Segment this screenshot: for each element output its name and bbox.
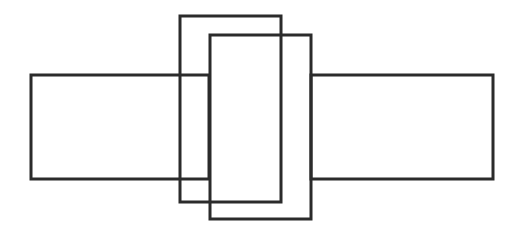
tall-rect-front bbox=[210, 35, 311, 219]
tall-rect-back bbox=[180, 16, 281, 202]
left-rect bbox=[31, 75, 209, 179]
right-rect bbox=[311, 75, 493, 179]
diagram-canvas bbox=[0, 0, 520, 236]
